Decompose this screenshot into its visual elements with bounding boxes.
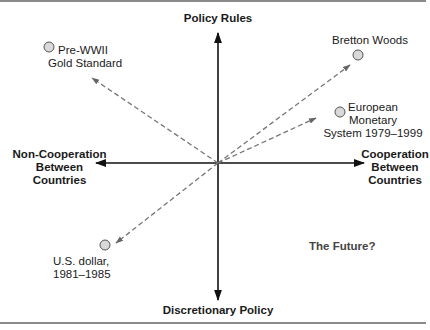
label-bretton-woods: Bretton Woods: [325, 34, 415, 47]
axis-label-left: Non-Cooperation Between Countries: [12, 148, 107, 187]
label-ems: European Monetary System 1979–1999: [318, 101, 428, 140]
arrow-ems: [218, 118, 316, 163]
point-bretton-woods: [353, 50, 363, 60]
axis-label-bottom: Discretionary Policy: [148, 304, 288, 317]
label-pre-wwii: Pre-WWII Gold Standard: [48, 44, 118, 70]
point-us-dollar: [100, 240, 110, 250]
annotation-the-future: The Future?: [309, 240, 375, 253]
bottom-border: [0, 322, 426, 324]
axis-label-top: Policy Rules: [168, 12, 268, 25]
label-us-dollar: U.S. dollar, 1981–1985: [53, 255, 123, 281]
arrow-us-dollar: [116, 163, 218, 243]
arrow-pre-wwii: [92, 78, 218, 163]
axis-label-right: Cooperation Between Countries: [360, 148, 430, 187]
